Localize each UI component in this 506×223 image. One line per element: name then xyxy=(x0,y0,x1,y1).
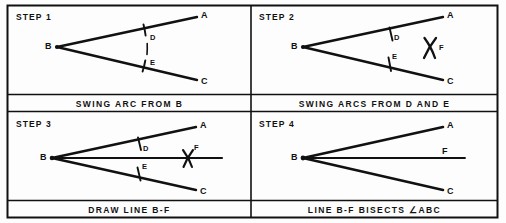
tick-e xyxy=(389,58,392,72)
panel-2-drawing xyxy=(301,17,443,80)
vertex-b-dot xyxy=(301,45,305,49)
ray-ba xyxy=(303,127,443,158)
tick-d xyxy=(390,28,393,41)
panel-3-drawing xyxy=(50,127,222,190)
vertex-b-dot xyxy=(50,156,55,161)
ray-bc xyxy=(303,158,443,190)
ray-bc xyxy=(303,47,443,80)
panel-1-drawing xyxy=(55,17,197,80)
construction-figure: STEP 1 SWING ARC FROM B B A C D E STEP 2… xyxy=(0,0,506,223)
arc-from-b-lower-tick xyxy=(143,61,146,72)
vertex-b-dot xyxy=(301,156,306,161)
vertex-b-dot xyxy=(55,45,59,49)
construction-drawing xyxy=(0,0,506,223)
arc-from-b-upper-tick xyxy=(144,25,146,36)
ray-bc xyxy=(52,158,196,190)
panel-4-drawing xyxy=(301,127,465,190)
ray-ba xyxy=(303,17,443,47)
ray-bc xyxy=(57,47,197,80)
ray-ba xyxy=(57,17,197,47)
ray-ba xyxy=(52,127,196,158)
